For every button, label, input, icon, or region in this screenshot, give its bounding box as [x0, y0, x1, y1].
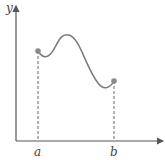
- point-b: [111, 78, 117, 84]
- label-a: a: [34, 145, 41, 159]
- function-graph: y a b: [0, 0, 165, 160]
- label-b: b: [110, 145, 118, 159]
- point-a: [35, 48, 41, 54]
- function-curve: [38, 35, 114, 88]
- y-axis-label: y: [5, 1, 13, 15]
